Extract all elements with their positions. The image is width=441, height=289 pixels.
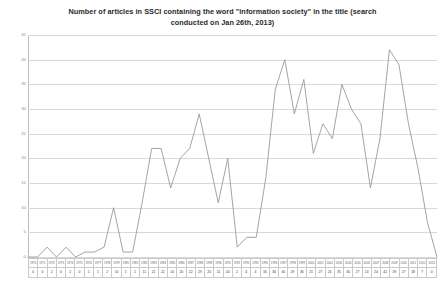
table-cell-value: 39: [390, 268, 399, 278]
table-cell-year: 2000: [306, 259, 315, 268]
table-cell-value: 0: [56, 268, 65, 278]
table-cell-value: 4: [251, 268, 260, 278]
table-cell-year: 1975: [75, 259, 84, 268]
table-cell-year: 1984: [158, 259, 167, 268]
table-cell-year: 2007: [371, 259, 380, 268]
table-cell-year: 2003: [334, 259, 343, 268]
table-cell-value: 2: [232, 268, 241, 278]
table-cell-year: 1995: [260, 259, 269, 268]
table-cell-value: 10: [112, 268, 121, 278]
table-cell-year: 1973: [56, 259, 65, 268]
chart-container: Number of articles in SSCI containing th…: [0, 0, 441, 289]
y-axis-tick-label: 30: [2, 107, 26, 111]
y-axis-tick-label: 5: [2, 230, 26, 234]
table-cell-year: 2009: [390, 259, 399, 268]
table-cell-value: 1: [121, 268, 130, 278]
table-cell-value: 36: [297, 268, 306, 278]
table-cell-value: 14: [167, 268, 176, 278]
table-cell-year: 1977: [93, 259, 102, 268]
table-cell-value: 22: [186, 268, 195, 278]
table-cell-value: 0: [427, 268, 437, 278]
table-cell-year: 2012: [418, 259, 427, 268]
table-cell-value: 2: [103, 268, 112, 278]
chart-title-line-1: Number of articles in SSCI containing th…: [50, 6, 395, 17]
table-cell-year: 1999: [297, 259, 306, 268]
table-cell-year: 1991: [223, 259, 232, 268]
series-polyline: [28, 50, 437, 257]
table-cell-value: 2: [47, 268, 56, 278]
table-cell-year: 1985: [167, 259, 176, 268]
table-cell-value: 20: [177, 268, 186, 278]
table-cell-year: 2002: [325, 259, 334, 268]
table-cell-value: 42: [381, 268, 390, 278]
table-row-values: 0020201121011112222142022292011202441634…: [29, 268, 437, 278]
table-cell-year: 1996: [269, 259, 278, 268]
table-cell-year: 1970: [29, 259, 38, 268]
table-cell-year: 2011: [408, 259, 417, 268]
table-cell-year: 2008: [381, 259, 390, 268]
y-axis-tick-label: 45: [2, 33, 26, 37]
y-axis-tick-label: 10: [2, 206, 26, 210]
table-cell-value: 27: [399, 268, 408, 278]
table-cell-year: 1976: [84, 259, 93, 268]
table-cell-year: 1998: [288, 259, 297, 268]
y-axis-tick-label: 35: [2, 82, 26, 86]
table-cell-year: 2004: [344, 259, 353, 268]
table-cell-value: 11: [214, 268, 223, 278]
y-axis-tick-label: 20: [2, 156, 26, 160]
chart-title: Number of articles in SSCI containing th…: [50, 6, 395, 28]
table-cell-value: 0: [29, 268, 38, 278]
table-cell-value: 1: [130, 268, 139, 278]
table-cell-value: 22: [149, 268, 158, 278]
table-cell-value: 1: [84, 268, 93, 278]
table-cell-value: 24: [325, 268, 334, 278]
table-cell-year: 1979: [112, 259, 121, 268]
y-axis-tick-label: 40: [2, 58, 26, 62]
data-table-wrapper: 1970197119721973197419751976197719781979…: [28, 258, 437, 284]
table-cell-value: 30: [344, 268, 353, 278]
table-cell-value: 27: [353, 268, 362, 278]
table-cell-value: 0: [75, 268, 84, 278]
table-cell-value: 7: [418, 268, 427, 278]
line-series: [28, 35, 437, 257]
table-cell-value: 34: [269, 268, 278, 278]
table-cell-year: 2001: [316, 259, 325, 268]
table-cell-year: 1972: [47, 259, 56, 268]
data-table: 1970197119721973197419751976197719781979…: [28, 258, 437, 278]
table-cell-year: 1993: [242, 259, 251, 268]
table-cell-value: 2: [66, 268, 75, 278]
table-cell-year: 1980: [121, 259, 130, 268]
plot-area: [28, 35, 437, 257]
table-cell-value: 14: [362, 268, 371, 278]
table-cell-value: 35: [334, 268, 343, 278]
table-cell-value: 29: [288, 268, 297, 278]
table-cell-year: 1994: [251, 259, 260, 268]
table-cell-year: 2013: [427, 259, 437, 268]
table-cell-year: 1997: [279, 259, 288, 268]
table-cell-year: 1989: [205, 259, 214, 268]
table-cell-year: 2006: [362, 259, 371, 268]
y-axis-tick-label: 15: [2, 181, 26, 185]
table-cell-year: 1981: [130, 259, 139, 268]
table-cell-value: 16: [260, 268, 269, 278]
table-cell-year: 1971: [38, 259, 47, 268]
table-cell-value: 29: [195, 268, 204, 278]
table-cell-year: 1988: [195, 259, 204, 268]
table-cell-value: 18: [408, 268, 417, 278]
chart-title-line-2: conducted on Jan 26th, 2013): [50, 17, 395, 28]
table-cell-value: 27: [316, 268, 325, 278]
y-axis-tick-label: 25: [2, 132, 26, 136]
table-cell-year: 2005: [353, 259, 362, 268]
table-row-years: 1970197119721973197419751976197719781979…: [29, 259, 437, 268]
y-axis-tick-label: 0: [2, 255, 26, 259]
table-cell-value: 40: [279, 268, 288, 278]
table-cell-year: 1987: [186, 259, 195, 268]
table-cell-value: 11: [140, 268, 149, 278]
table-cell-value: 4: [242, 268, 251, 278]
table-cell-year: 1982: [140, 259, 149, 268]
table-cell-value: 24: [371, 268, 380, 278]
table-cell-value: 20: [223, 268, 232, 278]
table-cell-year: 1992: [232, 259, 241, 268]
table-cell-year: 1983: [149, 259, 158, 268]
table-cell-year: 2010: [399, 259, 408, 268]
